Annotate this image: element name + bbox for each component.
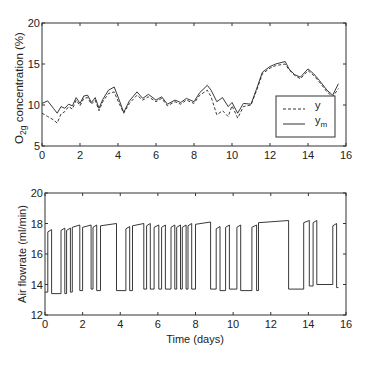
y-tick-label: 20: [28, 17, 40, 29]
bottom-series-group: [45, 221, 339, 294]
legend-box: [276, 96, 335, 137]
x-tick-label: 8: [191, 149, 197, 161]
figure: 02468101214165101520 O2g concentration (…: [0, 0, 366, 366]
x-tick-label: 8: [192, 318, 198, 330]
x-tick-label: 10: [226, 149, 238, 161]
x-tick-label: 16: [340, 149, 352, 161]
y-tick-label: 14: [31, 279, 43, 291]
y-tick-label: 12: [31, 309, 43, 321]
y-tick-label: 20: [31, 187, 43, 199]
bottom-y-axis-label: Air flowrate (ml/min): [16, 205, 28, 303]
y-tick-label: 16: [31, 248, 43, 260]
air-flowrate-plot: 02468101214161214161820 Air flowrate (ml…: [16, 187, 352, 345]
x-tick-label: 16: [340, 318, 352, 330]
x-tick-label: 2: [80, 318, 86, 330]
top-ticks: 02468101214165101520: [28, 17, 352, 161]
x-tick-label: 14: [302, 149, 314, 161]
legend: y ym: [276, 96, 335, 137]
x-tick-label: 10: [227, 318, 239, 330]
y-tick-label: 5: [34, 140, 40, 152]
air-flowrate-step-line: [45, 221, 339, 294]
y-tick-label: 18: [31, 218, 43, 230]
y-tick-label: 10: [28, 99, 40, 111]
bottom-x-axis-label: Time (days): [166, 333, 224, 345]
legend-label-y: y: [315, 99, 321, 111]
x-tick-label: 12: [265, 318, 277, 330]
x-tick-label: 6: [153, 149, 159, 161]
x-tick-label: 14: [302, 318, 314, 330]
x-tick-label: 4: [115, 149, 121, 161]
top-y-axis-label: O2g concentration (%): [13, 32, 28, 144]
x-tick-label: 2: [77, 149, 83, 161]
o2-concentration-plot: 02468101214165101520 O2g concentration (…: [13, 17, 352, 161]
x-tick-label: 4: [117, 318, 123, 330]
x-tick-label: 12: [264, 149, 276, 161]
y-tick-label: 15: [28, 58, 40, 70]
x-tick-label: 6: [155, 318, 161, 330]
